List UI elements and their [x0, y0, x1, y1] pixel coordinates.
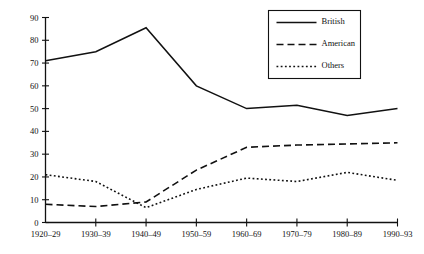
- x-tick-label: 1980–89: [332, 229, 362, 239]
- y-tick-label: 0: [34, 218, 38, 228]
- x-tick-label: 1930–39: [81, 229, 111, 239]
- y-tick-label: 70: [30, 58, 39, 68]
- y-tick-label: 50: [30, 104, 39, 114]
- y-tick-label: 80: [30, 35, 39, 45]
- x-tick-label: 1970–79: [282, 229, 312, 239]
- y-tick-label: 40: [30, 126, 39, 136]
- legend-label-american: American: [322, 38, 356, 48]
- chart-figure: 0102030405060708090 1920–291930–391940–4…: [0, 0, 424, 254]
- y-tick-label: 90: [30, 13, 39, 23]
- x-axis: 1920–291930–391940–491950–591960–691970–…: [31, 219, 413, 239]
- y-tick-label: 10: [30, 195, 39, 205]
- y-tick-label: 60: [30, 81, 39, 91]
- line-chart: 0102030405060708090 1920–291930–391940–4…: [0, 0, 424, 254]
- y-tick-label: 30: [30, 149, 39, 159]
- y-tick-label: 20: [30, 172, 39, 182]
- x-tick-label: 1960–69: [232, 229, 262, 239]
- x-tick-label: 1920–29: [31, 229, 61, 239]
- x-tick-label: 1940–49: [131, 229, 161, 239]
- series-line-others: [46, 172, 398, 207]
- legend-label-british: British: [322, 16, 346, 26]
- x-tick-label: 1950–59: [181, 229, 211, 239]
- y-axis: 0102030405060708090: [30, 13, 49, 228]
- series-line-american: [46, 143, 398, 207]
- legend-label-others: Others: [322, 60, 345, 70]
- x-tick-label: 1990–93: [383, 229, 413, 239]
- chart-legend: BritishAmericanOthers: [269, 11, 361, 79]
